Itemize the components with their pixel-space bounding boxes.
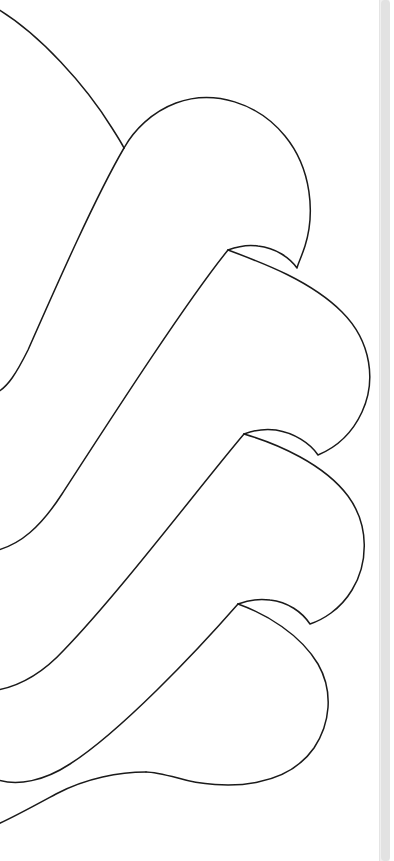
petal-6-lower-edge [0, 772, 146, 824]
petal-5-outline [146, 604, 328, 785]
petal-2-lower-sweep [0, 148, 124, 392]
petal-5-lower-sweep [0, 604, 238, 782]
petal-3-outline [228, 250, 370, 455]
petal-1-outer-arc [0, 8, 124, 148]
petal-4-outline [238, 434, 364, 624]
vertical-scrollbar-track[interactable] [379, 0, 390, 861]
vertical-scrollbar-thumb[interactable] [381, 0, 390, 861]
page-right-gutter [379, 0, 394, 861]
artwork-canvas-viewport[interactable] [0, 0, 379, 861]
petal-3-lower-sweep [0, 250, 228, 550]
petal-4-lower-sweep [0, 434, 244, 690]
petal-2-outline [124, 98, 310, 268]
app-window: Line Art Viewer Zoomed fan of five overl… [0, 0, 394, 861]
petal-line-drawing [0, 0, 379, 861]
